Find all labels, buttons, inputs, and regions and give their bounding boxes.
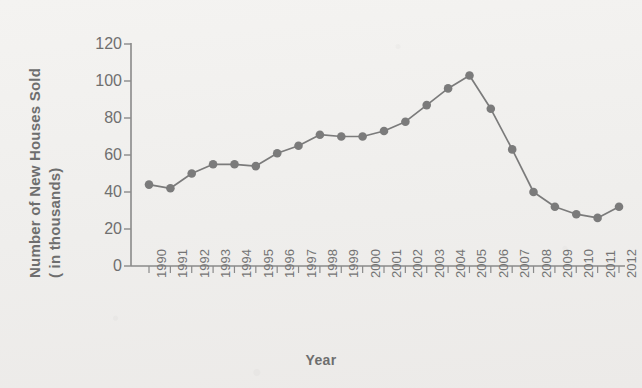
data-point-1996	[273, 149, 282, 158]
x-tick-label: 1995	[261, 249, 276, 278]
data-point-2005	[465, 71, 474, 80]
x-tick-label: 1991	[175, 249, 190, 278]
x-tick-label: 2006	[496, 249, 511, 278]
x-tick-label: 1996	[282, 249, 297, 278]
x-tick-label: 2002	[410, 249, 425, 278]
x-axis-title: Year	[0, 352, 642, 368]
x-tick-label: 1990	[154, 249, 169, 278]
x-tick-label: 2009	[560, 249, 575, 278]
x-tick-label: 1997	[304, 249, 319, 278]
series-polyline	[149, 76, 619, 218]
x-tick-label: 2011	[603, 250, 618, 278]
data-point-2008	[529, 188, 538, 197]
data-point-1997	[294, 142, 303, 151]
x-tick-label: 2012	[624, 249, 639, 278]
x-tick-label: 2004	[453, 249, 468, 278]
data-point-1991	[166, 184, 175, 193]
x-tick-label: 2001	[389, 249, 404, 278]
x-tick-label: 1998	[325, 249, 340, 278]
data-point-2003	[422, 101, 431, 110]
data-point-2006	[487, 105, 496, 114]
data-point-2002	[401, 117, 410, 126]
data-point-2012	[615, 203, 624, 212]
x-tick-label: 2000	[368, 249, 383, 278]
data-point-1995	[252, 162, 261, 171]
data-point-2004	[444, 84, 453, 93]
x-tick-label: 1993	[218, 249, 233, 278]
data-point-1992	[187, 169, 196, 178]
x-tick-label: 2003	[432, 249, 447, 278]
data-series-line	[149, 76, 619, 218]
x-tick-label: 2008	[539, 249, 554, 278]
data-point-2000	[358, 132, 367, 141]
data-point-2009	[551, 203, 560, 212]
data-point-2010	[572, 210, 581, 219]
data-point-1990	[145, 180, 154, 189]
x-tick-label: 1992	[197, 249, 212, 278]
data-point-1998	[316, 130, 325, 139]
data-point-2007	[508, 145, 517, 154]
data-point-2001	[380, 127, 389, 136]
data-point-1993	[209, 160, 218, 169]
data-point-1999	[337, 132, 346, 141]
chart-page: Number of New Houses Sold ( in thousands…	[0, 0, 642, 388]
x-tick-label: 2005	[474, 249, 489, 278]
data-point-2011	[593, 214, 602, 223]
x-tick-label: 1994	[239, 249, 254, 278]
line-chart-plot	[0, 0, 642, 388]
chart-axes	[124, 43, 625, 273]
data-point-1994	[230, 160, 239, 169]
data-point-markers	[145, 71, 624, 222]
x-tick-label: 2007	[517, 249, 532, 278]
x-tick-label: 2010	[581, 249, 596, 278]
x-tick-label: 1999	[346, 249, 361, 278]
